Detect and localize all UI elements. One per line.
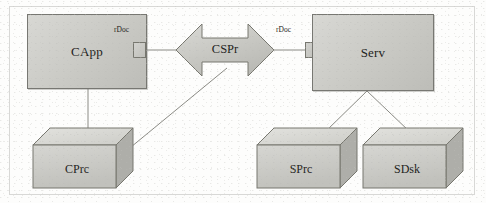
node-server-process[interactable]: SPrc [257,128,357,190]
node-server-label: Serv [313,44,433,60]
node-server-disk[interactable]: SDsk [363,128,463,190]
node-client-app-label: CApp [28,43,146,59]
sprc-cuboid-shape [257,128,357,190]
client-app-port-label: rDoc [114,25,129,34]
node-client-app[interactable]: CApp [27,14,147,89]
node-server[interactable]: Serv [312,14,434,91]
client-app-port[interactable] [133,42,146,58]
node-server-disk-label: SDsk [363,160,451,178]
server-port-label: rDoc [276,25,291,34]
connector-cspr[interactable]: CSPr [176,20,274,80]
diagram-canvas: CApp rDoc CSPr rDoc Serv [0,0,486,203]
node-client-process[interactable]: CPrc [33,128,133,190]
connector-cspr-label: CSPr [176,42,274,57]
node-client-process-label: CPrc [33,160,121,178]
cprc-cuboid-shape [33,128,133,190]
node-server-process-label: SPrc [257,160,345,178]
sdsk-cuboid-shape [363,128,463,190]
